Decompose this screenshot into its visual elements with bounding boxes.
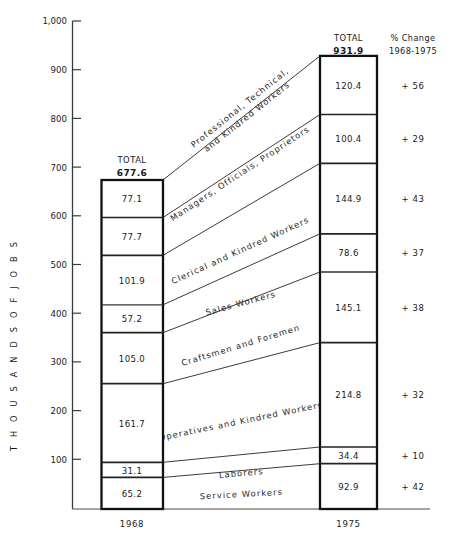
y-tick-label: 600 — [51, 211, 67, 221]
bar-1968-segment-value: 31.1 — [122, 466, 143, 476]
y-tick-label: 300 — [51, 357, 67, 367]
y-tick-label: 400 — [51, 309, 67, 319]
bar-1975-segment-value: 120.4 — [335, 81, 361, 91]
pct-change-value: + 38 — [401, 303, 424, 313]
bar-1968[interactable]: 77.1 77.7 101.9 57.2 105.0 161.7 31.1 65… — [102, 180, 164, 509]
pct-change-header-line2: 1968-1975 — [389, 46, 437, 56]
bar-1975[interactable]: 120.4 100.4 144.9 78.6 145.1 214.8 34.4 … — [320, 56, 377, 509]
pct-change-value: + 37 — [401, 248, 424, 258]
pct-change-value: + 42 — [401, 482, 424, 492]
bar-1975-segment-value: 34.4 — [338, 451, 359, 461]
bar-1968-segment-value: 77.1 — [122, 194, 143, 204]
bar-1968-segment-value: 105.0 — [119, 354, 145, 364]
bar-1975-segment-value: 145.1 — [335, 303, 361, 313]
x-axis-label-1975: 1975 — [336, 519, 360, 529]
y-tick-label: 500 — [51, 260, 67, 270]
stacked-bar-comparison-chart: T H O U S A N D S O F J O B S 1,000 900 … — [0, 0, 450, 546]
y-axis-ticks: 1,000 900 800 700 600 500 400 300 200 10… — [42, 16, 81, 464]
category-label-professional: Professional, Technical, — [189, 66, 291, 150]
chart-canvas: T H O U S A N D S O F J O B S 1,000 900 … — [0, 0, 450, 546]
bar-1968-segment-value: 57.2 — [122, 314, 143, 324]
pct-change-value: + 56 — [401, 81, 424, 91]
y-tick-label: 800 — [51, 114, 67, 124]
category-labels: Professional, Technical, and Kindred Wor… — [158, 66, 324, 502]
pct-change-column: % Change 1968-1975 + 56 + 29 + 43 + 37 +… — [389, 33, 437, 493]
bar-1968-segment-value: 161.7 — [119, 419, 145, 429]
bar-1975-segment-value: 144.9 — [335, 194, 361, 204]
category-label-craftsmen: Craftsmen and Foremen — [180, 322, 301, 368]
y-tick-label: 200 — [51, 406, 67, 416]
bar-1975-outline[interactable] — [320, 56, 377, 509]
y-tick-label: 1,000 — [42, 16, 67, 26]
total-value-1968: 677.6 — [117, 168, 147, 178]
y-tick-label: 900 — [51, 65, 67, 75]
pct-change-value: + 10 — [401, 451, 424, 461]
category-label-sales: Sales Workers — [204, 289, 277, 317]
pct-change-value: + 32 — [401, 390, 424, 400]
bar-1968-segment-value: 77.7 — [122, 232, 143, 242]
y-tick-label: 100 — [51, 455, 67, 465]
category-label-managers: Managers, Officials, Proprietors — [168, 124, 311, 223]
bar-1975-segment-value: 78.6 — [338, 248, 359, 258]
bar-1968-segment-value: 101.9 — [119, 276, 145, 286]
total-label-1968: TOTAL — [116, 155, 146, 165]
y-tick-label: 700 — [51, 163, 67, 173]
category-label-operatives: Operatives and Kindred Workers — [158, 399, 324, 442]
bar-1975-segment-value: 92.9 — [338, 482, 359, 492]
total-label-1975: TOTAL — [333, 33, 363, 43]
y-axis-title: T H O U S A N D S O F J O B S — [9, 239, 19, 452]
bar-1975-segment-value: 100.4 — [335, 134, 361, 144]
bar-1975-segment-value: 214.8 — [335, 390, 361, 400]
pct-change-value: + 29 — [401, 134, 424, 144]
pct-change-value: + 43 — [401, 194, 424, 204]
bar-1968-segment-value: 65.2 — [122, 489, 143, 499]
category-label-service: Service Workers — [199, 487, 283, 501]
bar-1968-outline[interactable] — [102, 180, 164, 509]
category-label-laborers: Laborers — [218, 466, 264, 480]
pct-change-header-line1: % Change — [391, 33, 436, 43]
category-label-clerical: Clerical and Kindred Workers — [170, 214, 311, 286]
x-axis-label-1968: 1968 — [120, 519, 144, 529]
total-value-1975: 931.9 — [333, 46, 363, 56]
